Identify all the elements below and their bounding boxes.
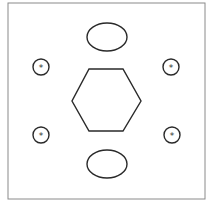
asterisk-mark: * — [39, 131, 44, 141]
asterisk-mark: * — [169, 63, 174, 73]
marked-circle-top-left: * — [33, 59, 49, 75]
bottom-ellipse — [87, 150, 127, 178]
asterisk-mark: * — [170, 131, 175, 141]
ellipses-group — [87, 23, 127, 178]
marked-circle-bottom-left: * — [33, 127, 49, 143]
hexagon — [72, 69, 141, 131]
marked-circle-top-right: * — [163, 59, 179, 75]
asterisk-mark: * — [39, 63, 44, 73]
diagram-canvas: **** — [0, 0, 214, 206]
outer-frame — [8, 3, 205, 199]
top-ellipse — [87, 23, 127, 51]
marked-circle-bottom-right: * — [164, 127, 180, 143]
